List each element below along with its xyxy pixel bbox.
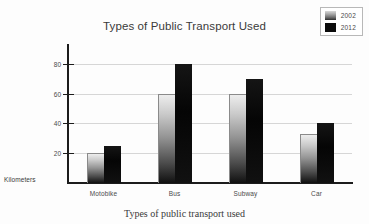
- bar-subway-2012[interactable]: [246, 79, 263, 183]
- bar-car-2012[interactable]: [317, 123, 334, 183]
- legend-label-2002: 2002: [341, 12, 356, 19]
- y-axis-tick-60: [63, 94, 74, 95]
- y-axis-tick-label-20: 20: [54, 150, 61, 157]
- legend-swatch-2012-icon: [325, 23, 336, 32]
- bar-car-2002[interactable]: [300, 134, 317, 183]
- chart-title: Types of Public Transport Used: [0, 20, 369, 32]
- y-axis-tick-label-40: 40: [54, 120, 61, 127]
- x-axis-category-label-motobike: Motobike: [90, 190, 118, 197]
- bar-chart: Types of Public Transport Used 2002 2012…: [0, 0, 369, 224]
- y-axis-tick-label-60: 60: [54, 90, 61, 97]
- x-axis-category-label-subway: Subway: [233, 190, 257, 197]
- bar-motobike-2002[interactable]: [87, 153, 104, 183]
- x-axis-category-label-car: Car: [311, 190, 322, 197]
- y-axis-tick-20: [63, 153, 74, 154]
- y-axis-tick-label-80: 80: [54, 60, 61, 67]
- x-axis-title: Types of public transport used: [0, 208, 369, 219]
- legend-item-2002[interactable]: 2002: [325, 11, 356, 20]
- chart-legend: 2002 2012: [320, 7, 363, 36]
- y-axis-tick-40: [63, 123, 74, 124]
- gridline-60: [68, 94, 352, 95]
- y-axis-unit-label: Kilometers: [4, 176, 36, 183]
- legend-item-2012[interactable]: 2012: [325, 23, 356, 32]
- gridline-40: [68, 123, 352, 124]
- y-axis-tick-80: [63, 64, 74, 65]
- legend-label-2012: 2012: [341, 24, 356, 31]
- bar-motobike-2012[interactable]: [104, 146, 121, 183]
- gridline-80: [68, 64, 352, 65]
- bar-bus-2002[interactable]: [158, 94, 175, 183]
- x-axis-category-label-bus: Bus: [169, 190, 181, 197]
- legend-swatch-2002-icon: [325, 11, 336, 20]
- plot-area: 20406080: [68, 52, 352, 183]
- bar-bus-2012[interactable]: [175, 64, 192, 183]
- bar-subway-2002[interactable]: [229, 94, 246, 183]
